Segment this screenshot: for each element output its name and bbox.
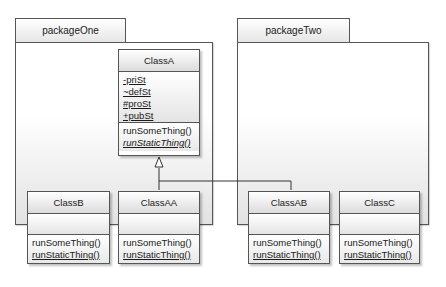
attribute: #proSt (123, 98, 195, 110)
operation: runSomeThing() (32, 237, 105, 249)
package-two-tab[interactable]: packageTwo (237, 18, 350, 42)
class-aa[interactable]: ClassAA runSomeThing() runStaticThing() (118, 191, 200, 264)
class-b[interactable]: ClassB runSomeThing() runStaticThing() (27, 191, 110, 264)
class-a[interactable]: ClassA -priSt ~defSt #proSt +pubSt runSo… (118, 49, 200, 156)
class-c[interactable]: ClassC runSomeThing() runStaticThing() (339, 191, 420, 264)
attribute: -priSt (123, 74, 195, 86)
operation: runSomeThing() (123, 237, 195, 249)
package-two-label: packageTwo (265, 25, 321, 36)
package-one-label: packageOne (42, 25, 99, 36)
attribute: ~defSt (123, 86, 195, 98)
operation: runStaticThing() (123, 249, 195, 261)
package-one-tab[interactable]: packageOne (15, 18, 126, 42)
operation: runSomeThing() (253, 237, 325, 249)
class-a-attributes: -priSt ~defSt #proSt +pubSt (119, 72, 199, 123)
class-b-attributes (28, 214, 109, 235)
class-c-name: ClassC (340, 192, 419, 214)
class-a-name: ClassA (119, 50, 199, 72)
operation: runStaticThing() (344, 249, 415, 261)
class-c-operations: runSomeThing() runStaticThing() (340, 235, 419, 263)
class-aa-name: ClassAA (119, 192, 199, 214)
class-ab-attributes (249, 214, 329, 235)
class-b-operations: runSomeThing() runStaticThing() (28, 235, 109, 263)
class-aa-attributes (119, 214, 199, 235)
operation: runStaticThing() (253, 249, 325, 261)
operation: runSomeThing() (123, 125, 195, 137)
operation: runStaticThing() (123, 137, 195, 149)
class-ab[interactable]: ClassAB runSomeThing() runStaticThing() (248, 191, 330, 264)
class-b-name: ClassB (28, 192, 109, 214)
class-c-attributes (340, 214, 419, 235)
class-a-operations: runSomeThing() runStaticThing() (119, 123, 199, 151)
class-ab-name: ClassAB (249, 192, 329, 214)
class-aa-operations: runSomeThing() runStaticThing() (119, 235, 199, 263)
operation: runSomeThing() (344, 237, 415, 249)
class-ab-operations: runSomeThing() runStaticThing() (249, 235, 329, 263)
attribute: +pubSt (123, 110, 195, 122)
operation: runStaticThing() (32, 249, 105, 261)
